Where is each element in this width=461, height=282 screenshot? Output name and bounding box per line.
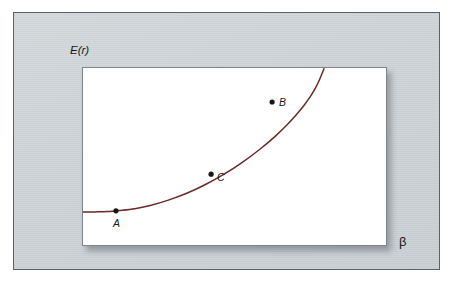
point-marker-c xyxy=(209,172,214,177)
x-axis-label-beta: β xyxy=(399,235,406,248)
point-label-b: B xyxy=(279,97,286,108)
figure-panel: E(r) β A B C xyxy=(13,12,440,270)
y-axis-label: E(r) xyxy=(70,45,89,57)
point-label-a: A xyxy=(113,218,120,229)
point-marker-a xyxy=(113,208,118,213)
plot-svg xyxy=(83,68,388,247)
exponential-curve xyxy=(83,69,324,212)
point-label-c: C xyxy=(217,172,225,183)
point-marker-b xyxy=(270,99,275,104)
plot-area: A B C xyxy=(82,67,387,246)
figure-container: E(r) β A B C xyxy=(0,0,461,282)
